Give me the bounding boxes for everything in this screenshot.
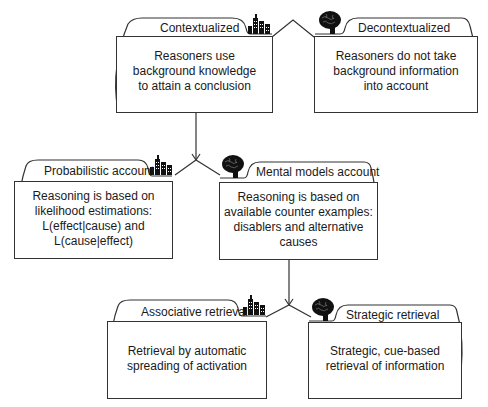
brain-icon	[312, 298, 334, 321]
text-line: Reasoners do not take	[315, 49, 477, 64]
tab-label-decontextualized: Decontextualized	[358, 21, 450, 35]
probabilistic-account-box: Reasoning is based on likelihood estimat…	[14, 181, 173, 259]
associative-retrieval-box: Retrieval by automatic spreading of acti…	[107, 321, 267, 399]
text-line: background knowledge	[117, 64, 272, 79]
associative-description: Retrieval by automatic spreading of acti…	[108, 344, 266, 374]
mental-models-description: Reasoning is based on available counter …	[220, 190, 377, 250]
text-line: spreading of activation	[108, 359, 266, 374]
text-line: into account	[315, 79, 477, 94]
contextualized-box: Reasoners use background knowledge to at…	[116, 36, 273, 113]
tab-label-strategic-retrieval: Strategic retrieval	[346, 308, 439, 322]
text-line: causes	[220, 235, 377, 250]
contextualized-description: Reasoners use background knowledge to at…	[117, 49, 272, 94]
text-line: L(cause|effect)	[15, 234, 172, 249]
text-line: disablers and alternative	[220, 220, 377, 235]
decontextualized-description: Reasoners do not take background informa…	[315, 49, 477, 94]
text-line: Reasoning is based on	[15, 189, 172, 204]
text-line: Strategic, cue-based	[309, 344, 461, 359]
diagram-canvas: Contextualized Decontextualized Reasoner…	[0, 0, 488, 407]
text-line: background information	[315, 64, 477, 79]
tab-label-probabilistic: Probabilistic account	[44, 164, 154, 178]
text-line: likelihood estimations:	[15, 204, 172, 219]
text-line: retrieval of information	[309, 359, 461, 374]
tab-label-mental-models: Mental models account	[256, 165, 379, 179]
probabilistic-description: Reasoning is based on likelihood estimat…	[15, 189, 172, 249]
text-line: Retrieval by automatic	[108, 344, 266, 359]
city-icon	[248, 14, 270, 34]
tab-label-associative-retrieval: Associative retrieval	[141, 305, 248, 319]
brain-icon	[319, 11, 341, 34]
text-line: available counter examples:	[220, 205, 377, 220]
text-line: L(effect|cause) and	[15, 219, 172, 234]
strategic-description: Strategic, cue-based retrieval of inform…	[309, 344, 461, 374]
text-line: Reasoners use	[117, 49, 272, 64]
brain-icon	[222, 155, 244, 178]
strategic-retrieval-box: Strategic, cue-based retrieval of inform…	[308, 322, 462, 399]
text-line: to attain a conclusion	[117, 79, 272, 94]
decontextualized-box: Reasoners do not take background informa…	[314, 36, 478, 113]
mental-models-account-box: Reasoning is based on available counter …	[219, 182, 378, 260]
text-line: Reasoning is based on	[220, 190, 377, 205]
tab-label-contextualized: Contextualized	[160, 21, 239, 35]
